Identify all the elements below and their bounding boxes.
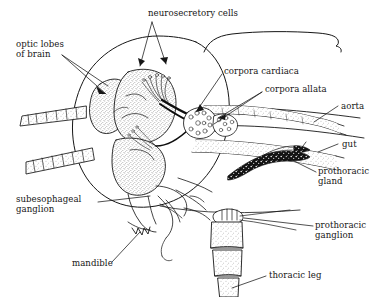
label-optic-lobes-of-brain: optic lobes of brain [16, 39, 64, 59]
label-gut: gut [342, 139, 357, 149]
label-subesophageal-ganglion: subesophageal ganglion [16, 194, 81, 214]
label-thoracic-leg: thoracic leg [269, 270, 321, 280]
label-mandible: mandible [72, 258, 113, 268]
label-prothoracic-gland: prothoracic gland [318, 166, 369, 186]
label-corpora-allata: corpora allata [265, 84, 327, 94]
label-prothoracic-ganglion: prothoracic ganglion [315, 220, 366, 240]
label-aorta: aorta [341, 101, 364, 111]
grouping-brace [204, 32, 341, 52]
label-neurosecretory-cells: neurosecretory cells [148, 8, 238, 18]
anatomical-figure: neurosecretory cells optic lobes of brai… [0, 0, 378, 297]
label-corpora-cardiaca: corpora cardiaca [224, 66, 299, 76]
